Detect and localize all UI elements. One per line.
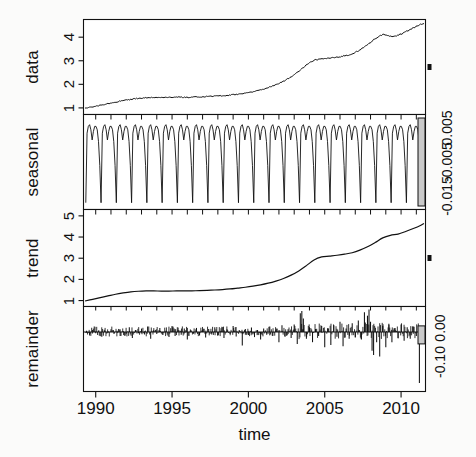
seasonal-scale-label: 0.005 — [436, 96, 458, 160]
panel-frame-remainder — [84, 307, 426, 392]
remainder-scale-label: 0.00 — [429, 300, 451, 356]
y-tick-label-trend: 5 — [58, 203, 80, 229]
y-tick-label-data: 4 — [58, 24, 80, 50]
data-scale-bar — [428, 64, 432, 70]
x-axis-title: time — [215, 425, 295, 445]
x-tick-label: 2010 — [371, 399, 431, 419]
x-tick-label: 2000 — [218, 399, 278, 419]
y-tick-label-data: 2 — [58, 71, 80, 97]
trend-scale-bar — [428, 255, 432, 261]
y-tick-label-data: 1 — [58, 95, 80, 121]
x-tick-label: 1995 — [142, 399, 202, 419]
y-tick-label-data: 3 — [58, 48, 80, 74]
panel-label-seasonal: seasonal — [22, 102, 44, 222]
panel-label-remainder: remainder — [22, 284, 44, 414]
panel-frame-data — [84, 20, 426, 115]
seasonal-scale-bar — [418, 118, 425, 206]
remainder-scale-bar — [418, 326, 425, 344]
x-tick-label: 2005 — [295, 399, 355, 419]
x-tick-label: 1990 — [66, 399, 126, 419]
x-axis-ticks — [96, 392, 401, 398]
